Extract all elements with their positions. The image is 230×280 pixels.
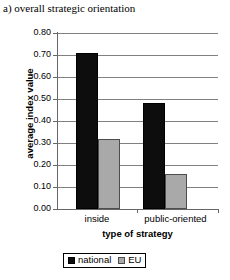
y-tick-0.80 [53, 33, 58, 34]
y-axis-label-0.30: 0.30 [33, 138, 51, 147]
legend-swatch-eu-icon [118, 257, 125, 264]
x-axis-line [57, 209, 219, 210]
plot-area [57, 33, 218, 209]
x-axis-tick-end [218, 209, 219, 213]
y-tick-0.70 [53, 55, 58, 56]
y-axis-label-0.60: 0.60 [33, 72, 51, 81]
y-tick-0.00 [53, 209, 58, 210]
legend-entry-national: national [68, 255, 111, 265]
legend-label-eu: EU [128, 255, 141, 265]
y-tick-0.10 [53, 187, 58, 188]
chart-legend: national EU [63, 253, 146, 268]
y-axis-label-0.20: 0.20 [33, 160, 51, 169]
bar-eu-public-oriented [165, 174, 187, 209]
bar-chart: average index value type of strategy 0.8… [0, 0, 230, 280]
y-axis-label-0.50: 0.50 [33, 94, 51, 103]
legend-entry-eu: EU [118, 255, 141, 265]
y-axis-label-0.40: 0.40 [33, 116, 51, 125]
x-axis-category-inside: inside [67, 213, 127, 224]
y-axis-label-0.00: 0.00 [33, 204, 51, 213]
x-axis-category-public-oriented: public-oriented [133, 213, 218, 224]
legend-swatch-national-icon [68, 257, 75, 264]
legend-label-national: national [78, 255, 111, 265]
y-tick-0.30 [53, 143, 58, 144]
y-tick-0.20 [53, 165, 58, 166]
y-tick-0.60 [53, 77, 58, 78]
bar-national-public-oriented [143, 103, 165, 209]
y-axis-label-0.80: 0.80 [33, 28, 51, 37]
y-tick-0.50 [53, 99, 58, 100]
y-axis-label-0.70: 0.70 [33, 50, 51, 59]
gridline-0.80 [57, 33, 218, 34]
y-tick-0.40 [53, 121, 58, 122]
bar-eu-inside [98, 139, 120, 209]
bar-national-inside [76, 53, 98, 209]
y-axis-label-0.10: 0.10 [33, 182, 51, 191]
x-axis-title: type of strategy [57, 228, 218, 239]
